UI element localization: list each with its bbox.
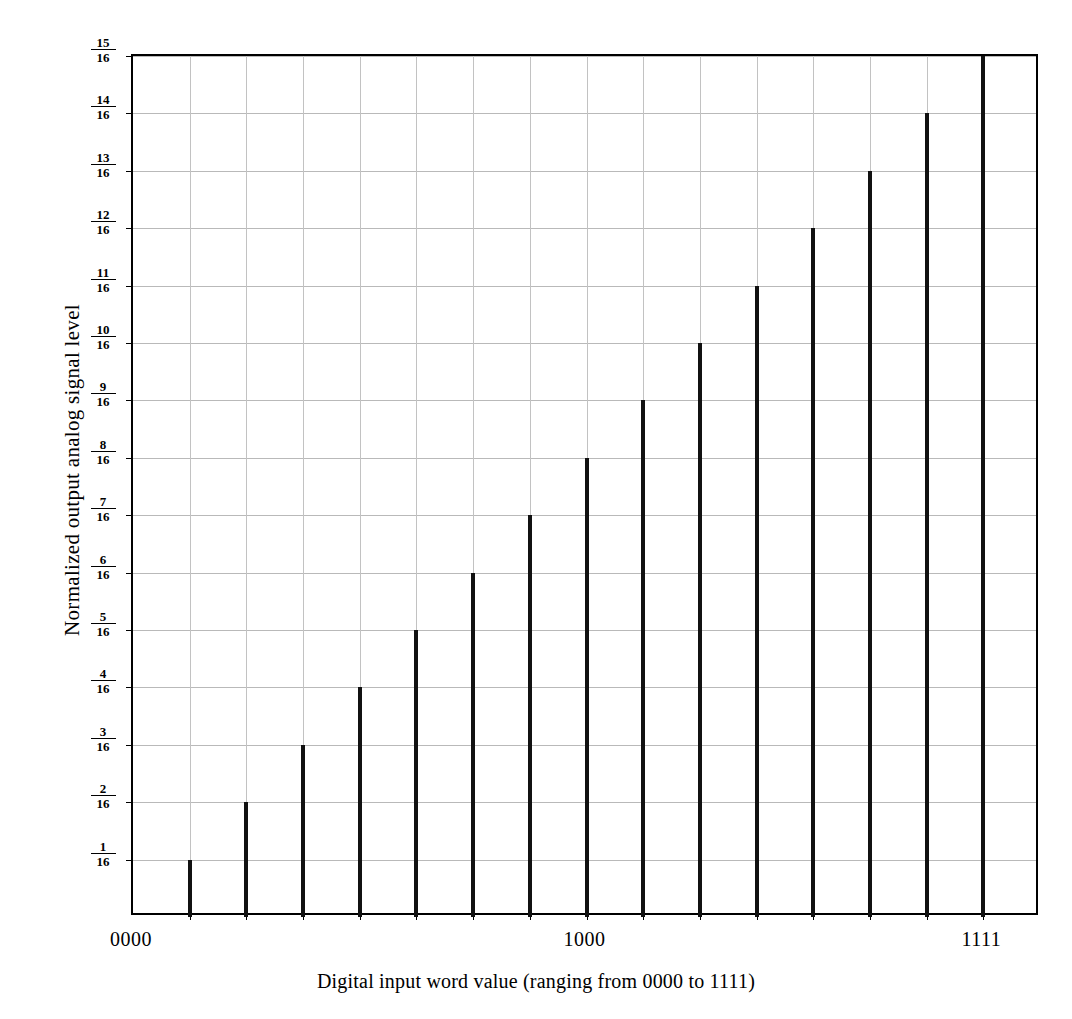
fraction-denominator: 16	[80, 567, 126, 581]
y-tick-label: 616	[80, 553, 126, 581]
x-tick-label: 1000	[525, 928, 645, 951]
gridline-horizontal	[133, 228, 1036, 229]
y-tick-mark	[126, 802, 133, 803]
gridline-horizontal	[133, 400, 1036, 401]
fraction-numerator: 13	[91, 151, 116, 165]
fraction-denominator: 16	[80, 681, 126, 695]
fraction-numerator: 6	[91, 553, 116, 567]
plot-inner	[133, 56, 1036, 913]
fraction-numerator: 2	[91, 782, 116, 796]
fraction-numerator: 3	[91, 725, 116, 739]
fraction-numerator: 7	[91, 495, 116, 509]
plot-area	[131, 54, 1038, 915]
y-tick-label: 216	[80, 782, 126, 810]
x-axis-title: Digital input word value (ranging from 0…	[0, 970, 1072, 993]
bar	[585, 458, 589, 917]
gridline-horizontal	[133, 343, 1036, 344]
y-tick-mark	[126, 515, 133, 516]
bar	[868, 171, 872, 917]
fraction-denominator: 16	[80, 796, 126, 810]
bar	[698, 343, 702, 917]
fraction-denominator: 16	[80, 394, 126, 408]
fraction-denominator: 16	[80, 854, 126, 868]
fraction-denominator: 16	[80, 50, 126, 64]
y-tick-label: 816	[80, 438, 126, 466]
x-tick-label: 1111	[921, 928, 1041, 951]
dac-transfer-chart: Normalized output analog signal level 11…	[0, 0, 1072, 1019]
fraction-denominator: 16	[80, 222, 126, 236]
fraction-numerator: 14	[91, 93, 116, 107]
fraction-numerator: 10	[91, 323, 116, 337]
fraction-numerator: 1	[91, 840, 116, 854]
y-tick-label: 1416	[80, 93, 126, 121]
y-tick-mark	[126, 113, 133, 114]
fraction-numerator: 15	[91, 36, 116, 50]
bar	[925, 113, 929, 917]
x-tick-label: 0000	[71, 928, 191, 951]
y-tick-label: 1016	[80, 323, 126, 351]
gridline-vertical	[190, 56, 191, 913]
fraction-denominator: 16	[80, 337, 126, 351]
fraction-numerator: 11	[91, 266, 116, 280]
y-tick-mark	[126, 687, 133, 688]
y-axis-tick-labels: 1162163164165166167168169161016111612161…	[78, 0, 126, 1019]
fraction-denominator: 16	[80, 107, 126, 121]
y-tick-label: 916	[80, 380, 126, 408]
y-tick-label: 116	[80, 840, 126, 868]
gridline-vertical	[246, 56, 247, 913]
y-tick-label: 1516	[80, 36, 126, 64]
bar	[188, 860, 192, 917]
fraction-numerator: 8	[91, 438, 116, 452]
gridline-horizontal	[133, 286, 1036, 287]
y-tick-mark	[126, 56, 133, 57]
fraction-denominator: 16	[80, 509, 126, 523]
y-tick-mark	[126, 171, 133, 172]
gridline-horizontal	[133, 113, 1036, 114]
bar	[641, 400, 645, 917]
y-tick-mark	[126, 630, 133, 631]
bar	[358, 687, 362, 917]
fraction-numerator: 12	[91, 208, 116, 222]
y-tick-label: 716	[80, 495, 126, 523]
y-tick-mark	[126, 228, 133, 229]
bar	[414, 630, 418, 917]
fraction-denominator: 16	[80, 165, 126, 179]
y-tick-label: 1316	[80, 151, 126, 179]
y-tick-mark	[126, 400, 133, 401]
y-tick-label: 1116	[80, 266, 126, 294]
fraction-denominator: 16	[80, 624, 126, 638]
fraction-numerator: 5	[91, 610, 116, 624]
fraction-denominator: 16	[80, 280, 126, 294]
bar	[811, 228, 815, 917]
y-tick-label: 416	[80, 667, 126, 695]
y-tick-mark	[126, 286, 133, 287]
bar	[471, 573, 475, 917]
bar	[244, 802, 248, 917]
y-tick-label: 1216	[80, 208, 126, 236]
bar	[301, 745, 305, 917]
fraction-numerator: 9	[91, 380, 116, 394]
bar	[981, 56, 985, 917]
fraction-numerator: 4	[91, 667, 116, 681]
bar	[755, 286, 759, 917]
y-tick-mark	[126, 458, 133, 459]
y-tick-mark	[126, 745, 133, 746]
y-tick-mark	[126, 573, 133, 574]
gridline-horizontal	[133, 56, 1036, 57]
gridline-horizontal	[133, 171, 1036, 172]
fraction-denominator: 16	[80, 452, 126, 466]
y-tick-label: 516	[80, 610, 126, 638]
bar	[528, 515, 532, 917]
y-tick-mark	[126, 860, 133, 861]
y-tick-mark	[126, 343, 133, 344]
fraction-denominator: 16	[80, 739, 126, 753]
y-tick-label: 316	[80, 725, 126, 753]
